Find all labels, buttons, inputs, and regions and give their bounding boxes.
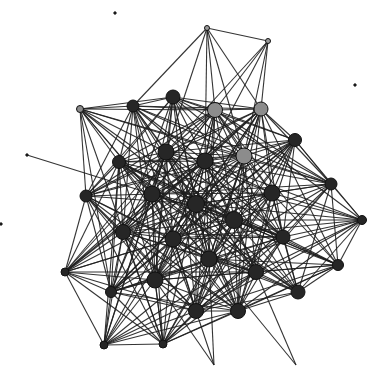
graph-node: [189, 304, 204, 319]
graph-node: [236, 148, 252, 164]
graph-node: [276, 230, 290, 244]
graph-node: [358, 216, 367, 225]
graph-node: [205, 26, 210, 31]
graph-node: [100, 341, 108, 349]
graph-node: [158, 144, 174, 160]
graph-node: [77, 106, 84, 113]
network-graph: [0, 0, 387, 385]
graph-node: [264, 185, 280, 201]
graph-node: [333, 260, 344, 271]
graph-node: [144, 186, 160, 202]
graph-node: [291, 285, 305, 299]
graph-node: [0, 223, 2, 225]
graph-node: [116, 225, 131, 240]
graph-node: [127, 100, 139, 112]
graph-edge: [207, 28, 268, 41]
graph-node: [80, 190, 92, 202]
graph-edge: [205, 28, 207, 161]
network-graph-canvas: [0, 0, 387, 385]
graph-edge: [207, 28, 261, 109]
graph-node: [201, 251, 217, 267]
graph-node: [159, 340, 167, 348]
graph-node: [197, 153, 213, 169]
graph-node: [226, 212, 243, 229]
graph-edge: [65, 272, 104, 345]
graph-node: [231, 304, 246, 319]
graph-node: [188, 196, 205, 213]
graph-node: [106, 287, 117, 298]
graph-node: [208, 103, 223, 118]
graph-node: [249, 265, 264, 280]
graph-node: [325, 178, 337, 190]
graph-edge: [104, 344, 163, 345]
graph-node: [147, 272, 163, 288]
graph-node: [165, 231, 181, 247]
graph-node: [61, 268, 69, 276]
graph-node: [26, 154, 28, 156]
graph-edge: [298, 220, 362, 292]
graph-node: [114, 12, 116, 14]
graph-node: [166, 90, 180, 104]
graph-node: [254, 102, 268, 116]
graph-node: [289, 134, 302, 147]
graph-node: [266, 39, 271, 44]
graph-node: [354, 84, 356, 86]
graph-node: [113, 156, 126, 169]
graph-edge: [283, 237, 338, 265]
